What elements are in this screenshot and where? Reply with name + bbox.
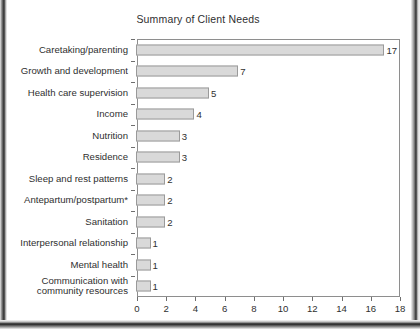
page-right-edge-shadow <box>411 0 420 329</box>
x-axis-tick-label: 12 <box>307 303 318 314</box>
bar-row: Interpersonal relationship1 <box>7 233 411 255</box>
category-label: Growth and development <box>7 66 135 76</box>
x-axis-tick <box>342 297 343 301</box>
x-axis-tick-label: 8 <box>251 303 256 314</box>
chart-title: Summary of Client Needs <box>7 13 411 25</box>
y-axis-tick <box>131 39 135 40</box>
bar-cell: 3 <box>135 147 398 169</box>
bar <box>136 87 209 98</box>
bar-value-label: 5 <box>211 87 216 98</box>
category-label: Nutrition <box>7 131 135 141</box>
chart-paper: Summary of Client Needs Caretaking/paren… <box>7 0 411 320</box>
bar-row: Income4 <box>7 104 411 126</box>
bar-row: Antepartum/postpartum*2 <box>7 190 411 212</box>
y-axis-tick <box>131 82 135 83</box>
bar <box>136 152 180 163</box>
page-left-edge-shadow <box>0 0 7 329</box>
category-label: Income <box>7 109 135 119</box>
y-axis-tick <box>131 104 135 105</box>
bar-cell: 2 <box>135 211 398 233</box>
x-axis-tick-label: 0 <box>134 303 139 314</box>
bar <box>136 66 238 77</box>
bar <box>136 281 151 292</box>
bar-cell: 3 <box>135 125 398 147</box>
bar-cell: 1 <box>135 254 398 276</box>
bar-row: Residence3 <box>7 147 411 169</box>
x-axis-tick <box>195 297 196 301</box>
bar-cell: 7 <box>135 61 398 83</box>
x-axis-tick <box>400 297 401 301</box>
category-label: Communication with community resources <box>7 276 135 297</box>
bar-row: Nutrition3 <box>7 125 411 147</box>
bar-value-label: 2 <box>167 173 172 184</box>
bar-cell: 2 <box>135 190 398 212</box>
bar-value-label: 1 <box>153 259 158 270</box>
x-axis: 024681012141618 <box>137 297 400 321</box>
y-axis-tick <box>131 147 135 148</box>
x-axis-tick <box>283 297 284 301</box>
bar-value-label: 2 <box>167 195 172 206</box>
bar <box>136 173 165 184</box>
bar <box>136 44 384 55</box>
category-label: Health care supervision <box>7 88 135 98</box>
y-axis-tick <box>131 61 135 62</box>
bar-row: Sleep and rest patterns2 <box>7 168 411 190</box>
scanned-chart-page: Summary of Client Needs Caretaking/paren… <box>0 0 420 329</box>
bar-row: Health care supervision5 <box>7 82 411 104</box>
y-axis-tick <box>131 233 135 234</box>
bar-value-label: 1 <box>153 281 158 292</box>
x-axis-tick-label: 4 <box>193 303 198 314</box>
x-axis-tick <box>254 297 255 301</box>
bar-value-label: 3 <box>182 152 187 163</box>
x-axis-tick-label: 6 <box>222 303 227 314</box>
bar-value-label: 4 <box>196 109 201 120</box>
x-axis-tick-label: 16 <box>365 303 376 314</box>
y-axis-tick <box>131 190 135 191</box>
bar-cell: 2 <box>135 168 398 190</box>
x-axis-tick-label: 10 <box>278 303 289 314</box>
x-axis-tick <box>312 297 313 301</box>
bar-cell: 17 <box>135 39 398 61</box>
bar-row: Communication with community resources1 <box>7 276 411 298</box>
bar <box>136 216 165 227</box>
page-bottom-edge-shadow <box>0 320 420 329</box>
category-label: Interpersonal relationship <box>7 238 135 248</box>
bar <box>136 109 194 120</box>
y-axis-tick <box>131 168 135 169</box>
category-label: Sanitation <box>7 217 135 227</box>
bar <box>136 238 151 249</box>
y-axis-tick <box>131 254 135 255</box>
bar-cell: 1 <box>135 233 398 255</box>
bar-row: Caretaking/parenting17 <box>7 39 411 61</box>
x-axis-tick <box>137 297 138 301</box>
x-axis-tick-label: 18 <box>395 303 406 314</box>
bar-cell: 5 <box>135 82 398 104</box>
y-axis-tick <box>131 276 135 277</box>
bar-cell: 1 <box>135 276 398 298</box>
bar-value-label: 7 <box>240 66 245 77</box>
category-label: Antepartum/postpartum* <box>7 195 135 205</box>
y-axis-tick <box>131 211 135 212</box>
x-axis-tick <box>225 297 226 301</box>
category-label: Caretaking/parenting <box>7 45 135 55</box>
bar-row: Growth and development7 <box>7 61 411 83</box>
bar-value-label: 3 <box>182 130 187 141</box>
x-axis-tick-label: 2 <box>164 303 169 314</box>
x-axis-tick-label: 14 <box>336 303 347 314</box>
bar-value-label: 17 <box>386 44 397 55</box>
category-label: Sleep and rest patterns <box>7 174 135 184</box>
bar <box>136 259 151 270</box>
bar-row: Mental health1 <box>7 254 411 276</box>
bar <box>136 130 180 141</box>
bar-row: Sanitation2 <box>7 211 411 233</box>
bar-rows: Caretaking/parenting17Growth and develop… <box>7 39 411 297</box>
category-label: Mental health <box>7 260 135 270</box>
x-axis-tick <box>371 297 372 301</box>
bar-value-label: 2 <box>167 216 172 227</box>
bar-cell: 4 <box>135 104 398 126</box>
x-axis-tick <box>166 297 167 301</box>
category-label: Residence <box>7 152 135 162</box>
y-axis-tick <box>131 125 135 126</box>
bar-value-label: 1 <box>153 238 158 249</box>
bar <box>136 195 165 206</box>
